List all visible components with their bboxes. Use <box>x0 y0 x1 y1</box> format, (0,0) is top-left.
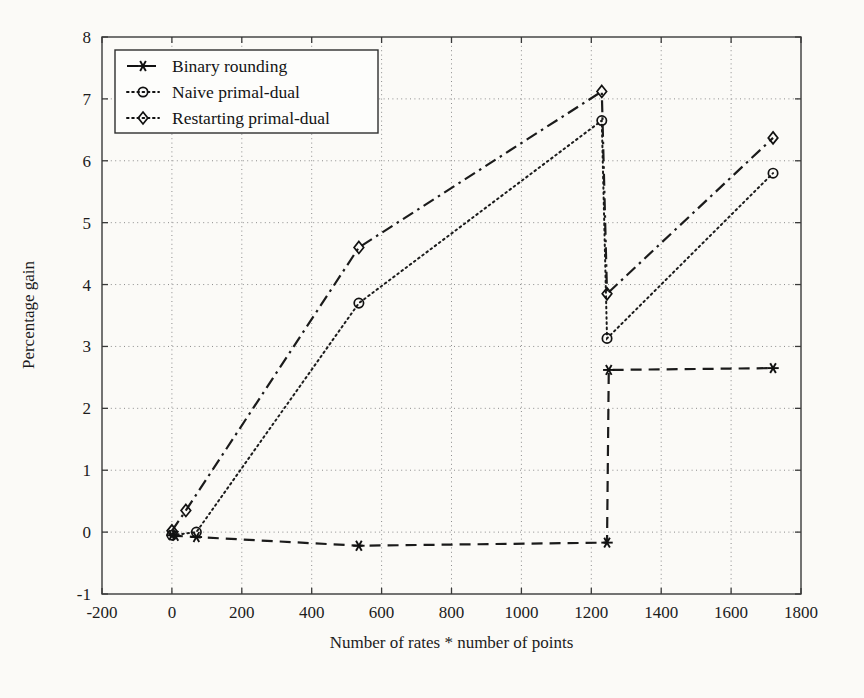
chart-legend: Binary roundingNaive primal-dualRestarti… <box>115 50 378 133</box>
x-tick-label: 1600 <box>714 603 748 622</box>
legend-label: Naive primal-dual <box>172 82 300 102</box>
x-tick-label: 1200 <box>574 603 608 622</box>
y-tick-label: 3 <box>83 337 92 356</box>
x-tick-label: -200 <box>86 603 117 622</box>
x-tick-label: 200 <box>229 603 255 622</box>
x-tick-label: 600 <box>369 603 395 622</box>
legend-label: Restarting primal-dual <box>172 108 330 128</box>
y-tick-label: 5 <box>83 214 92 233</box>
y-tick-label: 7 <box>83 90 92 109</box>
x-tick-label: 800 <box>439 603 465 622</box>
x-tick-label: 1400 <box>644 603 678 622</box>
y-tick-label: 6 <box>83 152 92 171</box>
y-tick-label: 4 <box>83 276 92 295</box>
y-tick-label: 1 <box>83 461 92 480</box>
chart-container: -200020040060080010001200140016001800-10… <box>0 0 864 698</box>
x-tick-label: 400 <box>299 603 325 622</box>
y-axis-label: Percentage gain <box>19 260 38 369</box>
x-tick-label: 1800 <box>784 603 818 622</box>
y-tick-label: -1 <box>77 585 91 604</box>
x-tick-label: 1000 <box>504 603 538 622</box>
legend-label: Binary rounding <box>172 56 287 76</box>
y-tick-label: 8 <box>83 28 92 47</box>
percentage-gain-line-chart: -200020040060080010001200140016001800-10… <box>0 0 864 698</box>
y-tick-label: 2 <box>83 399 92 418</box>
x-axis-label: Number of rates * number of points <box>330 633 574 652</box>
x-tick-label: 0 <box>168 603 177 622</box>
y-tick-label: 0 <box>83 523 92 542</box>
